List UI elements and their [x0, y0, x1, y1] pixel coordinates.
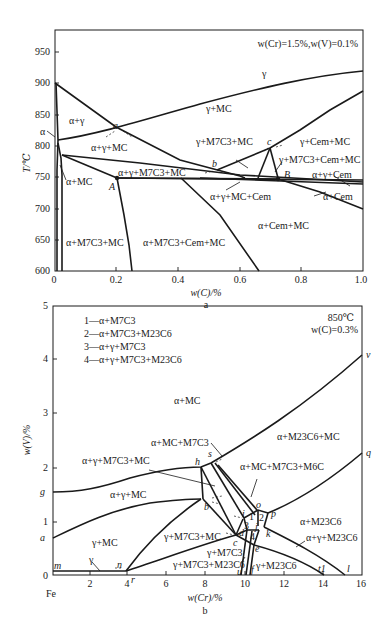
legend-item: 2—α+M7C3+M23C6 [84, 328, 172, 339]
region-label: α [40, 126, 46, 137]
x-tick-label: 10 [240, 578, 250, 589]
region-number-2: 2 [259, 512, 264, 523]
region-label: α+MC [66, 176, 93, 187]
y-tick-label: 950 [35, 46, 50, 57]
x-tick-label: 6 [164, 578, 169, 589]
y-tick-label: 750 [35, 171, 50, 182]
chart-b-xlabel: w(Cr)/% [188, 592, 223, 604]
phase-diagrams: 950 900 850 800 750 700 650 600 0 0.2 0.… [0, 0, 390, 633]
x-tick-label: 0.4 [172, 274, 185, 285]
point-label-i: i [242, 508, 245, 519]
region-label: α+γ+MC [110, 489, 147, 500]
point-label-l: l [347, 563, 350, 574]
region-label: γ+M23C6 [255, 560, 297, 571]
region-label: γ+M7C3 [206, 547, 243, 558]
point-label-t1: t1 [318, 563, 326, 574]
y-tick-label: 5 [43, 300, 48, 311]
region-number-3: 3 [244, 520, 249, 531]
chart-a: 950 900 850 800 750 700 650 600 0 0.2 0.… [21, 30, 367, 310]
region-label: γ+Cem+MC [299, 136, 350, 147]
point-label-h: h [195, 456, 200, 467]
region-number-4: 4 [250, 531, 255, 542]
chart-b-annotation-comp: w(C)=0.3% [311, 324, 358, 336]
region-number-1: 1 [249, 511, 254, 522]
region-label: α+MC [174, 395, 201, 406]
y-tick-label: 3 [43, 407, 48, 418]
region-label: α+γ+Cem [312, 169, 352, 180]
legend-item: 1—α+M7C3 [84, 315, 135, 326]
x-tick-label: 8 [203, 578, 208, 589]
point-label-n: n [117, 559, 122, 570]
region-label: α+M23C6 [300, 516, 341, 527]
chart-a-subtitle: a [204, 299, 209, 310]
region-label: α+M23C6+MC [277, 431, 340, 442]
point-label-r: r [131, 574, 135, 585]
region-label: α+MC+M7C3+M6C [240, 461, 324, 472]
x-tick-label: 14 [318, 578, 328, 589]
region-label: α+γ+M23C6 [306, 532, 358, 543]
x-tick-label: 1.0 [355, 274, 368, 285]
region-label: γ+M7C3+Cem+MC [278, 154, 361, 165]
point-label-o: o [256, 499, 261, 510]
point-label-p: p [270, 508, 276, 519]
point-label-k: k [266, 528, 271, 539]
chart-b-ylabel: w(V)/% [21, 425, 33, 456]
region-label: γ [261, 68, 267, 79]
y-tick-label: 4 [43, 353, 48, 364]
point-label-A: A [108, 181, 116, 192]
point-label-f: f [251, 564, 255, 575]
region-label: α+γ [69, 115, 85, 126]
x-tick-label: 0.6 [234, 274, 247, 285]
point-label-b: b [212, 158, 217, 169]
y-tick-label: 900 [35, 77, 50, 88]
chart-b: 0 1 2 3 4 5 2 4 6 8 10 12 14 16 Fe w(Cr)… [21, 300, 371, 616]
point-label-a: a [40, 532, 45, 543]
point-label-B: B [284, 169, 290, 180]
y-tick-label: 700 [35, 203, 50, 214]
region-label: α+M7C3+MC [66, 237, 124, 248]
region-label: α+MC+M7C3 [151, 437, 209, 448]
point-label-a: a [113, 120, 118, 131]
point-label-e: e [255, 543, 260, 554]
point-B [276, 177, 280, 181]
region-label: γ+M7C3+MC [195, 136, 253, 147]
legend-item: 4—α+γ+M7C3+M23C6 [84, 354, 182, 365]
chart-b-y-ticks: 0 1 2 3 4 5 [43, 300, 57, 581]
y-tick-label: 600 [35, 265, 50, 276]
region-label: γ+MC [205, 103, 232, 114]
chart-b-region-labels: α+MC α+MC+M7C3 α+γ+M7C3+MC α+γ+MC γ+MC γ… [82, 395, 358, 571]
x-tick-label: 12 [279, 578, 289, 589]
point-label-c: c [267, 136, 272, 147]
y-tick-label: 850 [35, 109, 50, 120]
legend-item: 3—α+γ+M7C3 [84, 341, 146, 352]
x-tick-label: 4 [125, 578, 130, 589]
region-label: α+γ+M7C3+MC [82, 455, 150, 466]
chart-b-legend: 1—α+M7C3 2—α+M7C3+M23C6 3—α+γ+M7C3 4—α+γ… [84, 315, 182, 365]
point-label-b: b [204, 501, 209, 512]
point-label-g: g [40, 486, 45, 497]
region-label: γ+M7C3+MC [163, 531, 221, 542]
x-tick-label: 0 [52, 274, 57, 285]
chart-b-origin-label: Fe [46, 588, 57, 599]
x-tick-label: 16 [356, 578, 366, 589]
y-tick-label: 800 [35, 140, 50, 151]
y-tick-label: 650 [35, 234, 50, 245]
region-label: α+M7C3+Cem+MC [143, 237, 225, 248]
region-label: α+Cem+MC [258, 220, 309, 231]
x-tick-label: 0.8 [295, 274, 308, 285]
x-tick-label: 0.2 [110, 274, 123, 285]
chart-a-annotation: w(Cr)=1.5%,w(V)=0.1% [258, 38, 358, 50]
chart-a-x-ticks: 0 0.2 0.4 0.6 0.8 1.0 [52, 267, 368, 285]
chart-a-ylabel: T/℃ [21, 153, 32, 173]
region-label: γ+M7C3+M23C6 [172, 559, 245, 570]
point-label-s: s [208, 448, 212, 459]
region-label: γ [88, 554, 94, 565]
chart-b-annotation-temp: 850℃ [328, 312, 354, 323]
point-label-q: q [366, 447, 371, 458]
y-tick-label: 1 [43, 516, 48, 527]
region-label: α+γ+M7C3+MC [118, 167, 186, 178]
region-label: γ+MC [91, 537, 118, 548]
point-label-v: v [366, 349, 371, 360]
region-label: α+Cem [323, 191, 353, 202]
chart-a-xlabel: w(C)/% [190, 287, 221, 299]
